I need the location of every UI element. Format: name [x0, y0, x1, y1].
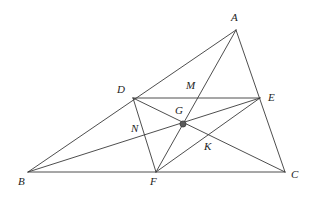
point-label-a: A — [231, 12, 238, 23]
point-label-g: G — [175, 105, 183, 116]
point-label-n: N — [131, 123, 138, 134]
side-CA — [236, 30, 285, 172]
point-label-c: C — [291, 169, 298, 180]
segment-FE — [156, 98, 260, 172]
cevian-BE — [28, 98, 260, 172]
point-label-e: E — [268, 92, 275, 103]
point-label-k: K — [204, 141, 211, 152]
point-label-b: B — [18, 176, 25, 187]
point-label-f: F — [150, 176, 157, 187]
point-label-m: M — [186, 80, 195, 91]
segment-DF — [133, 98, 156, 172]
points-layer — [180, 121, 186, 127]
cevian-AF — [156, 30, 236, 172]
geometry-figure: ABCDEFGMNK — [0, 0, 309, 198]
cevian-CD — [133, 98, 285, 172]
segments-layer — [28, 30, 285, 172]
geometry-canvas — [0, 0, 309, 198]
point-marker-g — [180, 121, 186, 127]
point-label-d: D — [117, 84, 125, 95]
